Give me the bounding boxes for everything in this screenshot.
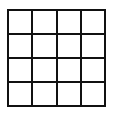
grid-cell	[81, 58, 105, 82]
grid-cell	[8, 82, 32, 106]
grid-cell	[57, 34, 81, 58]
grid-cell	[32, 10, 56, 34]
grid-cell	[57, 10, 81, 34]
grid-4x4	[7, 9, 106, 107]
grid-cell	[81, 82, 105, 106]
grid-cell	[57, 82, 81, 106]
grid-cell	[81, 34, 105, 58]
grid-cell	[81, 10, 105, 34]
grid-cell	[57, 58, 81, 82]
grid-cell	[8, 34, 32, 58]
grid-cell	[8, 58, 32, 82]
grid-cell	[8, 10, 32, 34]
grid-cell	[32, 58, 56, 82]
grid-cell	[32, 82, 56, 106]
grid-cell	[32, 34, 56, 58]
